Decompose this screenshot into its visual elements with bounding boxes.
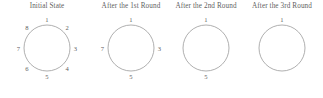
node-label: 2 <box>63 24 72 31</box>
node-label: 7 <box>98 45 107 52</box>
circle-outline <box>108 25 154 71</box>
panel-after-2nd-round: After the 2nd Round 15 <box>166 0 246 98</box>
panel-title: After the 3rd Round <box>242 2 322 11</box>
circle-outline <box>259 25 305 71</box>
panel-title: After the 2nd Round <box>166 2 246 11</box>
panel-after-3rd-round: After the 3rd Round 1 <box>242 0 322 98</box>
circle-diagram: 1357 <box>107 24 155 72</box>
node-label: 5 <box>127 73 136 80</box>
panel-title: Initial State <box>4 2 90 11</box>
node-label: 1 <box>127 16 136 23</box>
node-label: 6 <box>22 65 31 72</box>
node-label: 5 <box>43 73 52 80</box>
circle-diagram: 1 <box>258 24 306 72</box>
node-label: 3 <box>155 45 164 52</box>
node-label: 3 <box>71 45 80 52</box>
node-label: 8 <box>22 24 31 31</box>
circle-diagram: 12345678 <box>23 24 71 72</box>
node-label: 1 <box>202 16 211 23</box>
node-label: 4 <box>63 65 72 72</box>
josephus-elimination-figure: Initial State 12345678 After the 1st Rou… <box>0 0 323 98</box>
node-label: 1 <box>43 16 52 23</box>
panel-initial-state: Initial State 12345678 <box>4 0 90 98</box>
circle-outline <box>183 25 229 71</box>
node-label: 1 <box>278 16 287 23</box>
node-label: 7 <box>14 45 23 52</box>
circle-diagram: 15 <box>182 24 230 72</box>
panel-title: After the 1st Round <box>88 2 174 11</box>
node-label: 5 <box>202 73 211 80</box>
panel-after-1st-round: After the 1st Round 1357 <box>88 0 174 98</box>
